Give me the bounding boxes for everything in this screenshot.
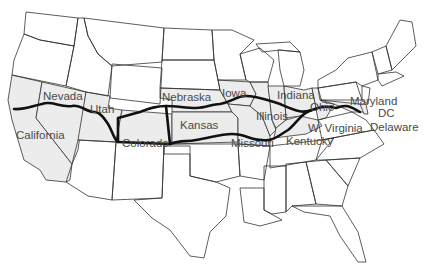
state-label-nebraska: Nebraska xyxy=(162,92,211,104)
state-label-kansas: Kansas xyxy=(180,120,218,132)
state-label-iowa: Iowa xyxy=(222,88,246,100)
state-label-delaware: Delaware xyxy=(370,122,419,134)
state-label-missouri: Missouri xyxy=(231,138,274,150)
state-label-illinois: Illinois xyxy=(256,111,288,123)
state-label-nevada: Nevada xyxy=(43,91,83,103)
state-label-ohio: Ohio xyxy=(310,102,334,114)
state-label-indiana: Indiana xyxy=(277,90,315,102)
state-label-utah: Utah xyxy=(90,104,114,116)
state-label-kentucky: Kentucky xyxy=(286,136,333,148)
state-label-california: California xyxy=(16,130,65,142)
state-label-west-virginia: W. Virginia xyxy=(308,123,363,135)
state-label-maryland: Maryland xyxy=(350,96,397,108)
us-map: Nevada Utah California Colorado Nebraska… xyxy=(0,0,428,269)
state-label-dc: DC xyxy=(378,108,395,120)
state-label-colorado: Colorado xyxy=(122,138,169,150)
